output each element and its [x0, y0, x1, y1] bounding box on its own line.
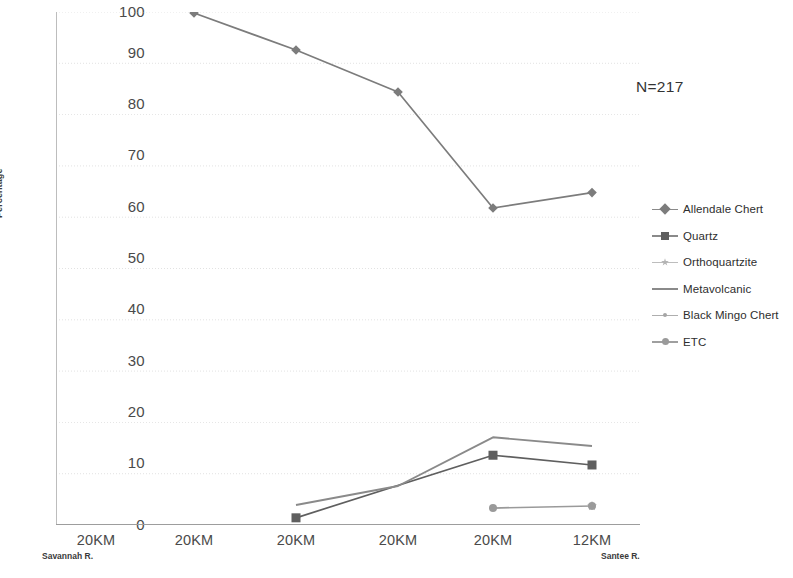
- legend-marker-circle-icon: [652, 335, 678, 349]
- legend-item-quartz[interactable]: Quartz: [652, 223, 792, 250]
- legend-item-metavolcanic[interactable]: Metavolcanic: [652, 276, 792, 303]
- series-allendale-chert: [189, 12, 597, 213]
- legend-label: ETC: [683, 336, 706, 348]
- legend-label: Black Mingo Chert: [683, 309, 779, 321]
- legend-item-orthoquartzite[interactable]: Orthoquartzite: [652, 249, 792, 276]
- x-tick-label: 20KM: [252, 532, 340, 548]
- x-tick-label: 20KM: [354, 532, 442, 548]
- sample-size-annotation: N=217: [636, 78, 684, 96]
- legend-marker-square-icon: [652, 229, 678, 243]
- legend-label: Quartz: [683, 230, 718, 242]
- x-tick-label: 12KM: [548, 532, 636, 548]
- legend-label: Orthoquartzite: [683, 256, 757, 268]
- legend-item-black-mingo-chert[interactable]: Black Mingo Chert: [652, 302, 792, 329]
- plot-area: [56, 12, 640, 525]
- x-axis-right-endpoint-label: Santee R.: [601, 551, 640, 561]
- legend-marker-diamond-icon: [652, 202, 678, 216]
- plot-canvas: [56, 12, 640, 525]
- x-tick-label: 20KM: [150, 532, 238, 548]
- legend: Allendale Chert Quartz Orthoquartzite Me…: [652, 196, 792, 355]
- x-axis-left-endpoint-label: Savannah R.: [42, 551, 93, 561]
- series-etc: [489, 502, 596, 512]
- legend-marker-dot-icon: [652, 308, 678, 322]
- legend-item-etc[interactable]: ETC: [652, 329, 792, 356]
- chart-container: Percentage 100 90 80 70 60 50 40 30 20 1…: [0, 0, 793, 578]
- y-axis-title: Percentage: [0, 98, 4, 218]
- legend-label: Metavolcanic: [683, 283, 751, 295]
- legend-label: Allendale Chert: [683, 203, 763, 215]
- legend-marker-star-icon: [652, 255, 678, 269]
- legend-marker-line-icon: [652, 282, 678, 296]
- x-tick-label: 20KM: [449, 532, 537, 548]
- legend-item-allendale-chert[interactable]: Allendale Chert: [652, 196, 792, 223]
- x-tick-label: 20KM: [52, 532, 140, 548]
